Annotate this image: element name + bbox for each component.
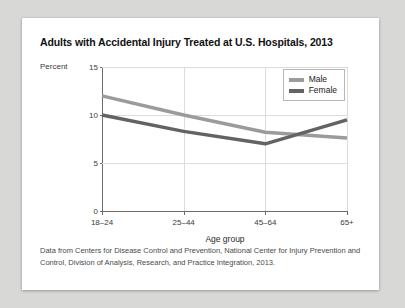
x-axis-tick-mark <box>184 211 185 215</box>
figure-card: Adults with Accidental Injury Treated at… <box>22 18 379 290</box>
legend-item-male: Male <box>289 74 337 85</box>
chart-footnote: Data from Centers for Disease Control an… <box>40 245 362 268</box>
x-axis-tick-mark <box>347 211 348 215</box>
x-axis-tick-label: 25–44 <box>173 218 195 227</box>
x-axis-tick-label: 65+ <box>340 218 354 227</box>
x-axis-tick-mark <box>265 211 266 215</box>
chart-legend: Male Female <box>283 69 345 101</box>
series-line-female <box>102 115 347 144</box>
y-axis-tick-marks <box>40 67 106 211</box>
x-axis-line <box>102 211 348 212</box>
plot-area: Male Female <box>102 67 347 211</box>
gridline-vertical <box>347 67 348 211</box>
x-axis-title: Age group <box>102 234 348 244</box>
legend-item-female: Female <box>289 85 337 96</box>
legend-swatch-female <box>289 89 304 93</box>
legend-label-female: Female <box>309 85 337 96</box>
legend-label-male: Male <box>309 74 327 85</box>
x-axis-tick-mark <box>102 211 103 215</box>
x-axis-tick-label: 45–64 <box>254 218 276 227</box>
x-axis-tick-label: 18–24 <box>91 218 113 227</box>
legend-swatch-male <box>289 78 304 82</box>
page-title: Adults with Accidental Injury Treated at… <box>40 36 333 48</box>
chart-plot: 051015 Male Female Age group 18–2425–444… <box>40 58 362 233</box>
